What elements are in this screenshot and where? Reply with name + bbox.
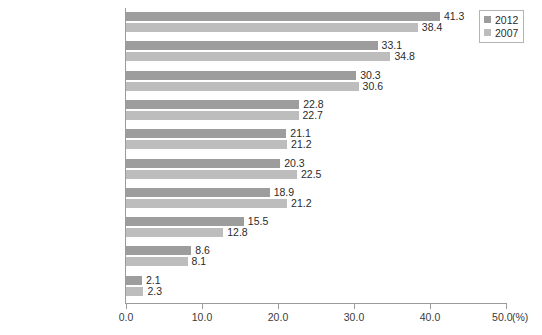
bar-row: 41.3 xyxy=(126,12,506,21)
bar-row: 30.6 xyxy=(126,82,506,91)
bar-row: 22.5 xyxy=(126,170,506,179)
bar-row: 21.2 xyxy=(126,199,506,208)
legend-label-2007: 2007 xyxy=(495,27,518,39)
bar-row: 2.1 xyxy=(126,276,506,285)
x-tick-mark xyxy=(202,304,203,309)
bar-2007 xyxy=(126,140,287,149)
bar-row: 22.7 xyxy=(126,111,506,120)
x-axis-unit-label: (%) xyxy=(512,311,528,323)
bar-value-label: 34.8 xyxy=(394,50,414,62)
bar-2012 xyxy=(126,276,142,285)
x-tick-mark xyxy=(278,304,279,309)
legend-item-2007: 2007 xyxy=(484,26,518,39)
bar-2007 xyxy=(126,257,188,266)
bar-group: 仕事の量の問題30.330.6 xyxy=(126,71,506,91)
legend-swatch-icon-2007 xyxy=(484,29,491,36)
plot-area: 職場の人間関係の問題41.338.4仕事の質の問題33.134.8仕事の量の問題… xyxy=(126,8,506,303)
x-tick-label: 10.0 xyxy=(192,311,212,323)
x-tick-mark xyxy=(126,304,127,309)
bar-row: 33.1 xyxy=(126,41,506,50)
bar-2007 xyxy=(126,23,418,32)
bar-value-label: 38.4 xyxy=(422,21,442,33)
x-tick-mark xyxy=(354,304,355,309)
legend-swatch-icon-2012 xyxy=(484,16,491,23)
bar-row: 22.8 xyxy=(126,100,506,109)
x-tick-label: 30.0 xyxy=(344,311,364,323)
x-tick-mark xyxy=(506,304,507,309)
bar-group: 会社の将来性の問題22.822.7 xyxy=(126,100,506,120)
bar-2007 xyxy=(126,199,287,208)
bar-2007 xyxy=(126,170,297,179)
bar-2012 xyxy=(126,129,286,138)
bar-value-label: 22.5 xyxy=(301,168,321,180)
bar-row: 15.5 xyxy=(126,217,506,226)
bar-row: 34.8 xyxy=(126,52,506,61)
legend-item-2012: 2012 xyxy=(484,13,518,26)
bar-row: 21.2 xyxy=(126,140,506,149)
bar-group: 雇用の安定性の問題15.512.8 xyxy=(126,217,506,237)
bar-row: 38.4 xyxy=(126,23,506,32)
bar-row: 20.3 xyxy=(126,159,506,168)
bar-row: 8.1 xyxy=(126,257,506,266)
bar-value-label: 21.2 xyxy=(291,138,311,150)
bar-group: 配置転換の問題8.68.1 xyxy=(126,246,506,266)
x-tick-label: 40.0 xyxy=(420,311,440,323)
bar-group: 定年後の仕事, 老後の問題21.121.2 xyxy=(126,129,506,149)
bar-row: 2.3 xyxy=(126,287,506,296)
bar-value-label: 15.5 xyxy=(248,215,268,227)
x-tick-label: 20.0 xyxy=(268,311,288,323)
bar-group: 仕事の質の問題33.134.8 xyxy=(126,41,506,61)
bar-value-label: 2.3 xyxy=(147,285,162,297)
bar-value-label: 41.3 xyxy=(444,10,464,22)
bar-row: 8.6 xyxy=(126,246,506,255)
bar-value-label: 12.8 xyxy=(227,226,247,238)
bar-group: 昇進, 昇給の問題18.921.2 xyxy=(126,188,506,208)
bar-row: 18.9 xyxy=(126,188,506,197)
chart-legend: 2012 2007 xyxy=(479,10,524,43)
bar-2012 xyxy=(126,12,440,21)
bar-2007 xyxy=(126,82,359,91)
bar-value-label: 8.1 xyxy=(192,255,207,267)
bar-2007 xyxy=(126,287,143,296)
bar-2012 xyxy=(126,188,270,197)
bar-row: 12.8 xyxy=(126,228,506,237)
bar-value-label: 22.7 xyxy=(303,109,323,121)
bar-2012 xyxy=(126,246,191,255)
bar-2007 xyxy=(126,111,299,120)
bar-group: 事故や災害の経験2.12.3 xyxy=(126,276,506,296)
bar-group: 仕事への適性の問題20.322.5 xyxy=(126,159,506,179)
bar-2012 xyxy=(126,41,378,50)
legend-label-2012: 2012 xyxy=(495,14,518,26)
bar-value-label: 21.2 xyxy=(291,197,311,209)
bar-2012 xyxy=(126,100,299,109)
x-tick-label: 0.0 xyxy=(119,311,134,323)
bar-2007 xyxy=(126,52,390,61)
x-tick-label: 50.0 xyxy=(492,311,512,323)
x-axis-line xyxy=(126,303,507,304)
bar-2012 xyxy=(126,71,356,80)
bar-row: 21.1 xyxy=(126,129,506,138)
bar-2012 xyxy=(126,159,280,168)
bar-row: 30.3 xyxy=(126,71,506,80)
bar-chart: 職場の人間関係の問題41.338.4仕事の質の問題33.134.8仕事の量の問題… xyxy=(0,0,542,335)
bar-2007 xyxy=(126,228,223,237)
bar-value-label: 30.6 xyxy=(363,80,383,92)
bar-2012 xyxy=(126,217,244,226)
bar-group: 職場の人間関係の問題41.338.4 xyxy=(126,12,506,32)
x-tick-mark xyxy=(430,304,431,309)
